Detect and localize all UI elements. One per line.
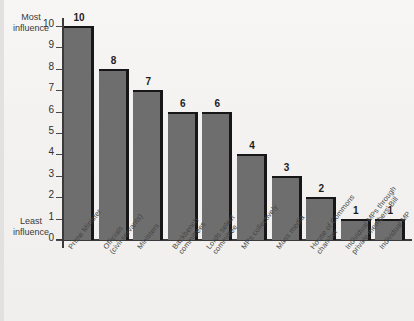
bar-group: 10 bbox=[64, 18, 94, 240]
bar-value-label: 4 bbox=[237, 140, 267, 151]
y-tick-label: 2 bbox=[48, 189, 54, 200]
bar-value-label: 2 bbox=[306, 183, 336, 194]
y-tick-label: 9 bbox=[48, 39, 54, 50]
bar-group: 6 bbox=[202, 18, 232, 240]
bar-value-label: 6 bbox=[168, 98, 198, 109]
y-tick-mark bbox=[56, 240, 62, 241]
y-tick-label: 3 bbox=[48, 168, 54, 179]
bar-value-label: 8 bbox=[99, 55, 129, 66]
y-tick-label: 10 bbox=[43, 18, 54, 29]
y-tick-label: 0 bbox=[48, 232, 54, 243]
bar-value-label: 6 bbox=[202, 98, 232, 109]
bar-group: 4 bbox=[237, 18, 267, 240]
page-edge bbox=[0, 0, 4, 321]
bar-group: 8 bbox=[99, 18, 129, 240]
y-tick-label: 4 bbox=[48, 146, 54, 157]
bar-value-label: 3 bbox=[272, 162, 302, 173]
bar bbox=[99, 69, 129, 240]
bar-value-label: 10 bbox=[64, 12, 94, 23]
bar-chart: Most influence Least influence 012345678… bbox=[0, 0, 414, 321]
bar bbox=[64, 26, 94, 240]
y-tick-label: 7 bbox=[48, 82, 54, 93]
bar-group: 2 bbox=[306, 18, 336, 240]
y-tick-label: 8 bbox=[48, 61, 54, 72]
bar-group: 7 bbox=[133, 18, 163, 240]
bar-value-label: 7 bbox=[133, 76, 163, 87]
y-tick-label: 1 bbox=[48, 211, 54, 222]
y-tick-label: 5 bbox=[48, 125, 54, 136]
y-tick-label: 6 bbox=[48, 104, 54, 115]
bar-group: 6 bbox=[168, 18, 198, 240]
